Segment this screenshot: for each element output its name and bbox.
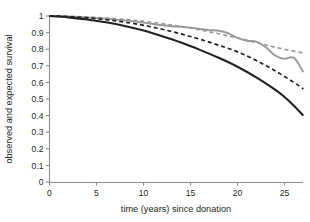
y-tick-label: 0.9 xyxy=(32,28,44,38)
y-tick-label: 0.7 xyxy=(32,61,44,71)
y-tick-label: 0.4 xyxy=(32,111,44,121)
y-tick-label: 0.3 xyxy=(32,127,44,137)
y-tick-label: 0.5 xyxy=(32,94,44,104)
y-tick-label: 1 xyxy=(39,11,44,21)
series-group xyxy=(50,16,304,116)
y-tick-label: 0.8 xyxy=(32,44,44,54)
x-tick-label: 20 xyxy=(233,188,243,198)
x-tick-label: 0 xyxy=(47,188,52,198)
x-tick-group: 0510152025 xyxy=(47,182,289,198)
y-tick-label: 0 xyxy=(39,177,44,187)
x-axis-title: time (years) since donation xyxy=(121,204,231,214)
x-tick-label: 15 xyxy=(186,188,196,198)
y-tick-label: 0.2 xyxy=(32,144,44,154)
survival-chart: 00.10.20.30.40.50.60.70.80.91 0510152025… xyxy=(0,0,310,222)
x-tick-label: 10 xyxy=(139,188,149,198)
series-line xyxy=(50,16,304,116)
y-tick-label: 0.6 xyxy=(32,78,44,88)
y-axis-title: observed and expected survival xyxy=(4,34,14,163)
y-tick-group: 00.10.20.30.40.50.60.70.80.91 xyxy=(32,11,50,187)
x-tick-label: 25 xyxy=(280,188,290,198)
x-tick-label: 5 xyxy=(94,188,99,198)
y-tick-label: 0.1 xyxy=(32,161,44,171)
